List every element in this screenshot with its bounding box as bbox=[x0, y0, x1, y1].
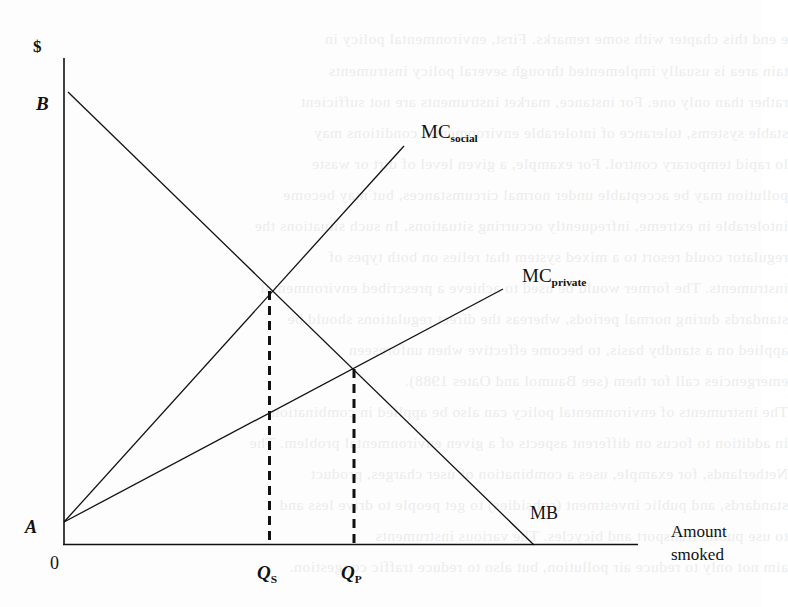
mc-social-subscript: social bbox=[451, 132, 478, 144]
qs-subscript: S bbox=[271, 573, 277, 585]
x-axis-label: Amount smoked bbox=[671, 520, 727, 566]
point-a-label: A bbox=[25, 517, 37, 538]
mc-private-curve bbox=[64, 289, 503, 522]
mb-curve bbox=[68, 92, 534, 545]
qp-label: QP bbox=[341, 562, 362, 585]
origin-label: 0 bbox=[50, 553, 59, 574]
point-b-label: B bbox=[36, 93, 49, 115]
mc-private-subscript: private bbox=[552, 276, 587, 288]
qs-label: QS bbox=[257, 562, 277, 585]
mc-social-label: MCsocial bbox=[421, 121, 478, 144]
x-axis-label-line1: Amount bbox=[671, 520, 727, 543]
mc-private-main: MC bbox=[522, 265, 552, 286]
mb-label: MB bbox=[530, 503, 558, 524]
qs-main: Q bbox=[257, 562, 271, 583]
y-axis-label: $ bbox=[33, 37, 42, 57]
mc-social-main: MC bbox=[421, 121, 451, 142]
qp-subscript: P bbox=[355, 573, 362, 585]
mc-private-label: MCprivate bbox=[522, 265, 586, 288]
x-axis-label-line2: smoked bbox=[671, 543, 727, 566]
qp-main: Q bbox=[341, 562, 355, 583]
